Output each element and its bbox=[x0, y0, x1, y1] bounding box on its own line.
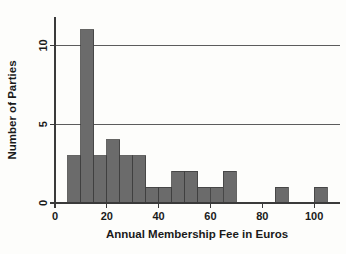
histogram-bar bbox=[146, 187, 159, 203]
histogram-bar bbox=[120, 156, 133, 203]
histogram-bar bbox=[210, 187, 223, 203]
histogram-bar bbox=[68, 156, 81, 203]
x-axis-title: Annual Membership Fee in Euros bbox=[106, 228, 288, 240]
histogram-bar bbox=[172, 171, 185, 203]
x-tick-label: 20 bbox=[101, 210, 113, 222]
y-axis-title: Number of Parties bbox=[6, 60, 18, 159]
x-tick-label: 0 bbox=[52, 210, 58, 222]
y-tick-label: 0 bbox=[37, 200, 49, 206]
y-tick-label: 10 bbox=[37, 39, 49, 51]
histogram-bar bbox=[133, 156, 146, 203]
x-tick-label: 40 bbox=[153, 210, 165, 222]
x-tick-label: 60 bbox=[204, 210, 216, 222]
histogram-figure: 020406080100 0510 Annual Membership Fee … bbox=[0, 0, 346, 254]
histogram-bar bbox=[107, 140, 120, 203]
histogram-bar bbox=[159, 187, 172, 203]
histogram-bar bbox=[198, 187, 211, 203]
histogram-bar bbox=[81, 30, 94, 203]
histogram-bar bbox=[223, 171, 236, 203]
x-tick-label: 80 bbox=[256, 210, 268, 222]
y-tick-label: 5 bbox=[37, 121, 49, 127]
histogram-bar bbox=[275, 187, 288, 203]
histogram-bar bbox=[314, 187, 327, 203]
x-tick-label: 100 bbox=[305, 210, 323, 222]
histogram-chart: 020406080100 0510 Annual Membership Fee … bbox=[0, 0, 346, 254]
histogram-bar bbox=[185, 171, 198, 203]
histogram-bar bbox=[94, 156, 107, 203]
